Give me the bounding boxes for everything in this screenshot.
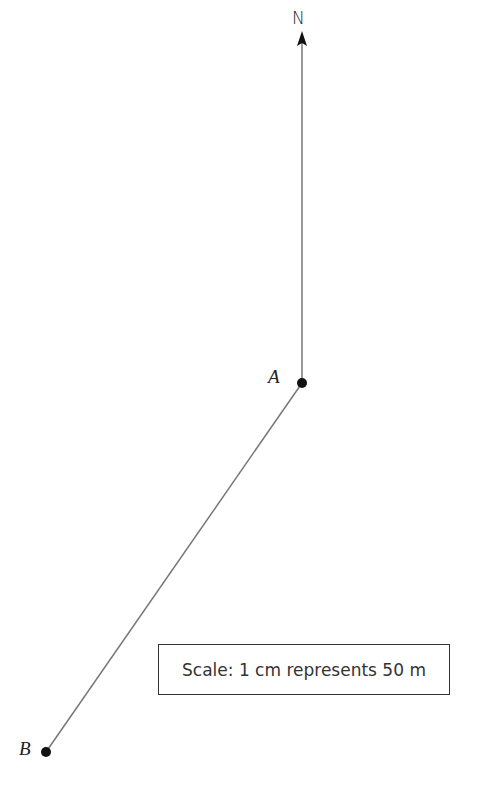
- point-a-dot: [297, 378, 307, 388]
- point-b-label: B: [19, 738, 31, 760]
- scale-text: Scale: 1 cm represents 50 m: [182, 660, 426, 680]
- scale-box: Scale: 1 cm represents 50 m: [158, 644, 450, 695]
- point-a-label: A: [268, 366, 280, 388]
- point-b-dot: [41, 747, 51, 757]
- north-label: N: [292, 8, 305, 28]
- segment-ab: [46, 383, 302, 752]
